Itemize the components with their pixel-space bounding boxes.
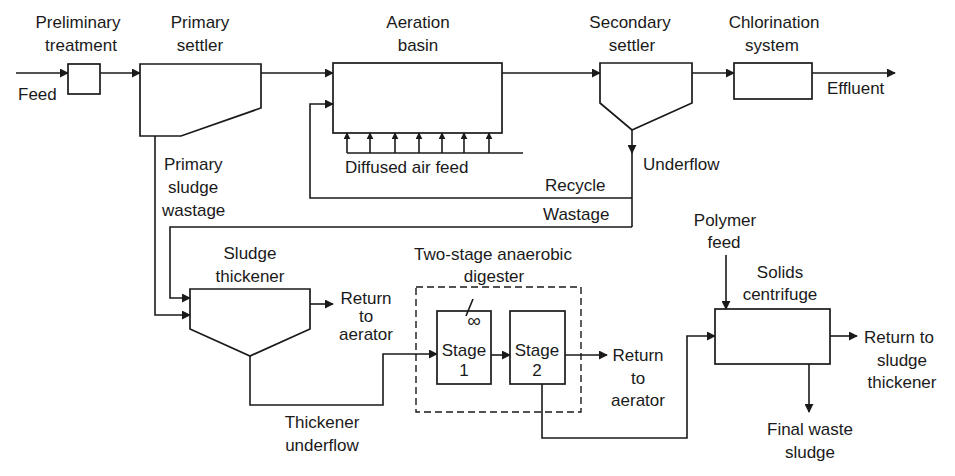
centrifuge-return-line3: thickener <box>868 373 937 392</box>
diffused-air-header: Diffused air feed <box>345 133 523 177</box>
centrifuge-return-line2: sludge <box>877 351 927 370</box>
solids-centrifuge-unit: Solids centrifuge <box>715 263 830 364</box>
preliminary-treatment-box <box>68 64 100 94</box>
preliminary-title-line2: treatment <box>45 36 117 55</box>
stage1-reactor: ∞ Stage 1 <box>437 299 491 384</box>
centrifuge-box <box>715 309 830 364</box>
polymer-feed-line2: feed <box>707 233 740 252</box>
secondary-title-line1: Secondary <box>589 13 671 32</box>
underflow-label: Underflow <box>643 155 720 174</box>
primary-sludge-label-line1: Primary <box>164 155 223 174</box>
anaerobic-digester-unit: Two-stage anaerobic digester ∞ Stage 1 S… <box>414 245 581 412</box>
centrifuge-return-stream: Return to sludge thickener <box>830 328 937 392</box>
aeration-title-line1: Aeration <box>386 13 449 32</box>
centrifuge-return-line1: Return to <box>864 328 934 347</box>
mixer-icon: ∞ <box>467 310 481 331</box>
stage1-label-line2: 1 <box>459 361 468 380</box>
digester-title-line2: digester <box>464 267 525 286</box>
thickener-underflow-line1: Thickener <box>285 413 360 432</box>
sludge-thickener-unit: Sludge thickener <box>190 244 310 356</box>
stage2-label-line1: Stage <box>515 341 559 360</box>
diffused-air-label: Diffused air feed <box>345 158 468 177</box>
thickener-return-line2: to <box>359 307 373 326</box>
wastewater-treatment-flow-diagram: Feed Preliminary treatment Primary settl… <box>0 0 955 476</box>
chlorination-unit: Chlorination system <box>729 13 820 99</box>
polymer-feed-line1: Polymer <box>694 211 757 230</box>
feed-label: Feed <box>18 85 57 104</box>
thickener-underflow-stream: Thickener underflow <box>250 354 437 455</box>
thickener-underflow-arrow-icon <box>250 354 437 405</box>
aeration-title-line2: basin <box>398 36 439 55</box>
recycle-label: Recycle <box>545 176 605 195</box>
primary-settler-tank <box>140 64 261 136</box>
digester-return-line1: Return <box>612 346 663 365</box>
aeration-basin-tank <box>333 63 502 133</box>
primary-settler-title-line1: Primary <box>171 13 230 32</box>
final-waste-line2: sludge <box>785 443 835 462</box>
final-waste-stream: Final waste sludge <box>767 364 853 462</box>
secondary-settler-tank <box>600 63 692 130</box>
primary-sludge-label-line3: wastage <box>161 201 225 220</box>
thickener-return-line1: Return <box>340 289 391 308</box>
centrifuge-title-line2: centrifuge <box>743 285 818 304</box>
thickener-title-line2: thickener <box>216 267 285 286</box>
thickener-return-stream: Return to aerator <box>310 289 393 344</box>
stage1-label-line1: Stage <box>442 341 486 360</box>
secondary-settler-unit: Secondary settler <box>589 13 692 130</box>
chlorination-title-line2: system <box>745 36 799 55</box>
digester-return-line3: aerator <box>611 391 665 410</box>
stage2-label-line2: 2 <box>532 361 541 380</box>
chlorination-title-line1: Chlorination <box>729 13 820 32</box>
digester-title-line1: Two-stage anaerobic <box>414 245 572 264</box>
feed-stream: Feed <box>16 73 68 104</box>
digester-return-line2: to <box>631 369 645 388</box>
chlorination-box <box>734 63 812 99</box>
preliminary-title-line1: Preliminary <box>35 13 121 32</box>
thickener-underflow-line2: underflow <box>285 436 359 455</box>
primary-settler-title-line2: settler <box>177 36 224 55</box>
wastage-label: Wastage <box>543 205 609 224</box>
effluent-label: Effluent <box>827 79 885 98</box>
sludge-thickener-tank <box>190 289 310 356</box>
primary-sludge-label-line2: sludge <box>168 178 218 197</box>
final-waste-line1: Final waste <box>767 420 853 439</box>
digester-return-stream: Return to aerator <box>565 346 665 410</box>
centrifuge-title-line1: Solids <box>757 263 803 282</box>
effluent-stream: Effluent <box>812 73 895 98</box>
secondary-title-line2: settler <box>609 36 656 55</box>
thickener-title-line1: Sludge <box>224 244 277 263</box>
primary-settler-unit: Primary settler <box>140 13 261 136</box>
aeration-basin-unit: Aeration basin <box>333 13 502 133</box>
stage2-reactor: Stage 2 <box>510 311 565 384</box>
thickener-return-line3: aerator <box>339 325 393 344</box>
preliminary-treatment-unit: Preliminary treatment <box>35 13 121 94</box>
